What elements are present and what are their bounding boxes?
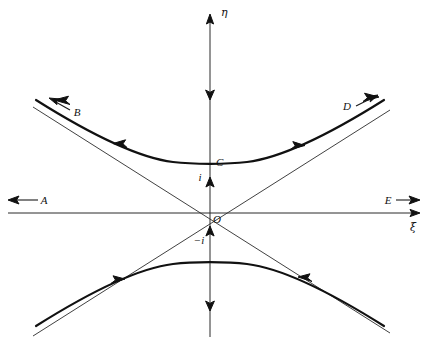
branch-label-d: D [342, 100, 351, 112]
xi-axis-label: ξ [410, 221, 417, 234]
tick-label-minus-i: −i [194, 234, 204, 246]
branch-label-e: E [384, 194, 392, 206]
branch-label-b: B [74, 106, 81, 118]
label-leader-arrows [8, 95, 420, 204]
branch-end-arrows [54, 93, 379, 104]
branch-label-c: C [216, 156, 224, 168]
hyperbola-diagram: η ξ O i −i A B C D E [0, 0, 430, 344]
asymptote-group [33, 107, 390, 336]
branch-label-a: A [40, 194, 48, 206]
d-leader-line [356, 98, 372, 106]
eta-axis-arrowhead [206, 14, 213, 24]
figure-canvas: η ξ O i −i A B C D E [0, 0, 430, 344]
axis-group [8, 14, 420, 337]
text-label-group: η ξ O i −i A B C D E [40, 6, 417, 246]
tick-label-i: i [198, 171, 201, 183]
origin-label: O [213, 213, 221, 225]
flow-arrow-upper-right-icon [291, 142, 305, 150]
xi-axis-arrowhead [410, 209, 420, 216]
eta-axis-label: η [221, 6, 228, 19]
